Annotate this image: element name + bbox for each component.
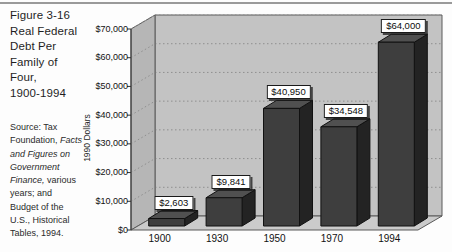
- x-tick-label-1970: 1970: [321, 233, 343, 244]
- bar-1930: [206, 198, 242, 226]
- value-label-1930: $9,841: [212, 175, 251, 189]
- x-tick-label-1900: 1900: [149, 233, 171, 244]
- y-tick-label: $20,000: [68, 167, 128, 177]
- y-tick-label: $10,000: [68, 196, 128, 206]
- chart-side-wall: [131, 15, 155, 230]
- value-label-1950: $40,950: [266, 85, 310, 99]
- x-tick-label-1994: 1994: [378, 233, 400, 244]
- y-tick-label: $60,000: [68, 52, 128, 62]
- bar-1970: [321, 127, 357, 226]
- y-tick-label: $50,000: [68, 81, 128, 91]
- y-tick-label: $0: [68, 225, 128, 235]
- bar-side-1950: [300, 100, 313, 226]
- figure-3-16-page: Figure 3-16Real FederalDebt PerFamily of…: [0, 0, 452, 252]
- bar-1994: [378, 42, 414, 226]
- y-tick-label: $70,000: [68, 24, 128, 34]
- value-label-1994: $64,000: [381, 19, 425, 33]
- debt-3d-bar-chart: [0, 0, 452, 252]
- value-label-1900: $2,603: [154, 196, 193, 210]
- bar-1900: [149, 219, 185, 226]
- y-tick-label: $40,000: [68, 110, 128, 120]
- bar-side-1970: [357, 119, 370, 226]
- y-tick-label: $30,000: [68, 138, 128, 148]
- value-label-1970: $34,548: [324, 104, 368, 118]
- x-tick-label-1930: 1930: [206, 233, 228, 244]
- bar-1950: [264, 108, 300, 226]
- bar-side-1994: [414, 34, 427, 226]
- x-tick-label-1950: 1950: [263, 233, 285, 244]
